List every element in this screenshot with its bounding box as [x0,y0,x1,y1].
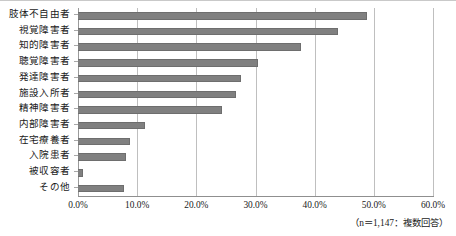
x-axis-line [78,196,434,197]
category-label: 肢体不自由者 [9,9,70,19]
x-tick-label: 10.0% [125,199,149,211]
bar [78,122,145,130]
category-label: 精神障害者 [19,103,70,113]
gridline-40 [315,8,316,196]
x-tick-label: 40.0% [303,199,327,211]
category-label: 視覚障害者 [19,25,70,35]
bar [78,153,126,161]
sample-size-note: （n＝1,147：複数回答） [350,217,448,229]
gridline-60 [433,8,434,196]
category-label: 発達障害者 [19,72,70,82]
bar-chart: 肢体不自由者 視覚障害者 知的障害者 聴覚障害者 発達障害者 施設入所者 精神障… [0,0,456,236]
x-tick-label: 30.0% [243,199,267,211]
bar [78,12,367,20]
bar [78,43,301,51]
gridline-30 [256,8,257,196]
category-label: 被収容者 [29,166,70,176]
bar [78,169,83,177]
category-label: 内部障害者 [19,119,70,129]
category-label: 知的障害者 [19,40,70,50]
bar [78,59,258,67]
gridline-20 [196,8,197,196]
x-axis: 0.0% 10.0% 20.0% 30.0% 40.0% 50.0% 60.0% [0,199,456,213]
category-label: 入院患者 [29,150,70,160]
bar [78,106,222,114]
x-tick-label: 60.0% [421,199,445,211]
plot-area [78,8,433,196]
category-label: 聴覚障害者 [19,56,70,66]
category-label: その他 [39,182,70,192]
top-frame-rule [0,0,456,1]
category-axis: 肢体不自由者 視覚障害者 知的障害者 聴覚障害者 発達障害者 施設入所者 精神障… [0,8,74,196]
category-label: 施設入所者 [19,88,70,98]
bar [78,91,236,99]
x-tick-label: 0.0% [68,199,88,211]
bar [78,28,338,36]
x-tick-label: 20.0% [184,199,208,211]
gridline-50 [374,8,375,196]
bar [78,75,241,83]
gridline-0 [78,8,79,196]
bar [78,185,124,193]
bar [78,138,130,146]
x-tick-label: 50.0% [362,199,386,211]
category-label: 在宅療養者 [19,135,70,145]
gridline-10 [137,8,138,196]
